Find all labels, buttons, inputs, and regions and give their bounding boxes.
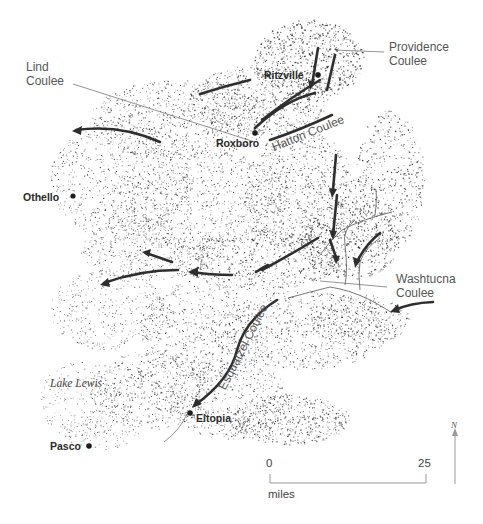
- scale-end-label: 25: [418, 456, 431, 470]
- town-label-othello: Othello: [23, 190, 59, 204]
- coulee-channel-outlines: [288, 190, 392, 313]
- lind-label-line2: Coulee: [26, 74, 64, 88]
- scale-unit-label: miles: [268, 487, 295, 501]
- scale-start-label: 0: [266, 456, 272, 470]
- washtucna-label-line2: Coulee: [396, 286, 456, 300]
- washtucna-label-line1: Washtucna: [396, 272, 456, 286]
- town-label-roxboro: Roxboro: [216, 136, 259, 150]
- north-arrow: [452, 428, 458, 484]
- lake-lewis-label: Lake Lewis: [50, 376, 102, 390]
- othello-dot: [70, 193, 75, 198]
- eltopia-leader: [164, 414, 187, 442]
- flow-arrow-washtucna: [395, 302, 433, 310]
- north-label: N: [451, 418, 457, 432]
- ritzville-dot: [315, 72, 321, 78]
- flow-arrow-south-1: [333, 155, 336, 190]
- roxboro-dot: [252, 130, 258, 136]
- town-label-ritzville: Ritzville: [264, 68, 304, 82]
- providence-label-line2: Coulee: [389, 54, 449, 68]
- pasco-dot: [86, 443, 92, 449]
- providence-coulee-label: Providence Coulee: [389, 40, 449, 68]
- town-label-pasco: Pasco: [50, 439, 81, 453]
- town-label-eltopia: Eltopia: [196, 411, 231, 425]
- flow-arrow-providence-2: [327, 55, 335, 90]
- lind-coulee-label: Lind Coulee: [26, 60, 64, 88]
- providence-coulee-leader: [335, 50, 384, 52]
- scale-bar: [270, 474, 426, 483]
- lind-coulee-leader: [73, 84, 255, 142]
- eltopia-dot: [187, 410, 193, 416]
- washtucna-coulee-leader: [320, 281, 387, 287]
- providence-label-line1: Providence: [389, 40, 449, 54]
- lind-label-line1: Lind: [26, 60, 64, 74]
- flow-arrow-west: [76, 129, 160, 143]
- flood-flow-arrows: [76, 48, 433, 405]
- washtucna-coulee-label: Washtucna Coulee: [396, 272, 456, 300]
